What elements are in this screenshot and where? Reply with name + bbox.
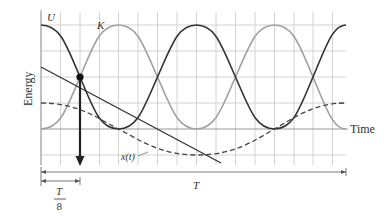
arrow-left-icon <box>41 179 46 183</box>
tangent-line <box>41 67 221 163</box>
period-label: T <box>193 179 200 191</box>
label-U: U <box>47 11 56 23</box>
arrow-right-icon <box>341 170 346 174</box>
arrow-down-icon <box>76 156 85 166</box>
arrow-left-icon <box>41 170 46 174</box>
x-axis-label: Time <box>350 122 375 136</box>
arrow-right-icon <box>75 179 80 183</box>
intersection-dot <box>76 73 83 80</box>
energy-time-diagram: U K Energy Time x(t) T T 8 <box>0 0 392 219</box>
fraction-numerator: T <box>56 185 63 197</box>
label-xt: x(t) <box>120 151 136 163</box>
label-K: K <box>96 19 105 31</box>
fraction-denominator: 8 <box>57 200 63 212</box>
grid <box>41 12 346 165</box>
y-axis-label: Energy <box>21 72 35 106</box>
